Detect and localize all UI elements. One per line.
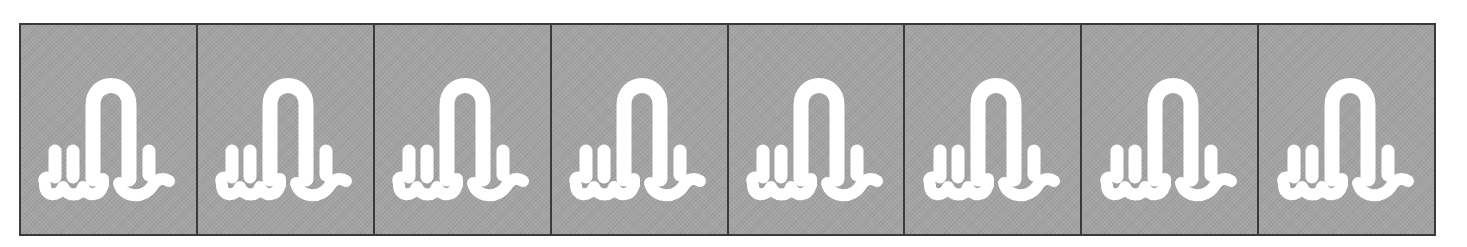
loop-glyph-icon [1099, 67, 1241, 213]
glyph-tile-8 [1259, 25, 1434, 234]
glyph-tile-6 [905, 25, 1082, 234]
glyph-tile-5 [729, 25, 906, 234]
loop-glyph-icon [745, 67, 887, 213]
glyph-tile-1 [21, 25, 198, 234]
loop-glyph-icon [37, 67, 179, 213]
glyph-tile-7 [1082, 25, 1259, 234]
loop-glyph-icon [391, 67, 533, 213]
loop-glyph-icon [568, 67, 710, 213]
glyph-tile-2 [198, 25, 375, 234]
glyph-tile-3 [375, 25, 552, 234]
tile-strip [19, 23, 1436, 236]
glyph-tile-4 [552, 25, 729, 234]
loop-glyph-icon [922, 67, 1064, 213]
loop-glyph-icon [214, 67, 356, 213]
loop-glyph-icon [1276, 67, 1418, 213]
